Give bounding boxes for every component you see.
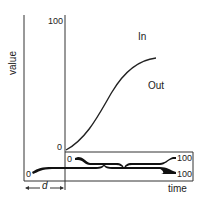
curve-label-out: Out (148, 81, 164, 91)
arrowhead-right-icon (60, 186, 64, 190)
inner-y-max-label: 100 (48, 17, 63, 26)
response-curve (66, 58, 156, 150)
inner-y-min-label: 0 (57, 143, 62, 152)
x-axis-label: time (168, 184, 187, 194)
delay-label: d (42, 181, 48, 191)
outer-range-brace (32, 164, 176, 174)
y-axis-label: value (8, 48, 18, 78)
inner-range-end: 100 (177, 154, 192, 163)
arrowhead-left-icon (25, 186, 29, 190)
outer-range-end: 100 (177, 170, 192, 179)
inner-range-start: 0 (67, 155, 72, 164)
outer-range-start: 0 (26, 170, 31, 179)
curve-label-in: In (138, 32, 146, 42)
